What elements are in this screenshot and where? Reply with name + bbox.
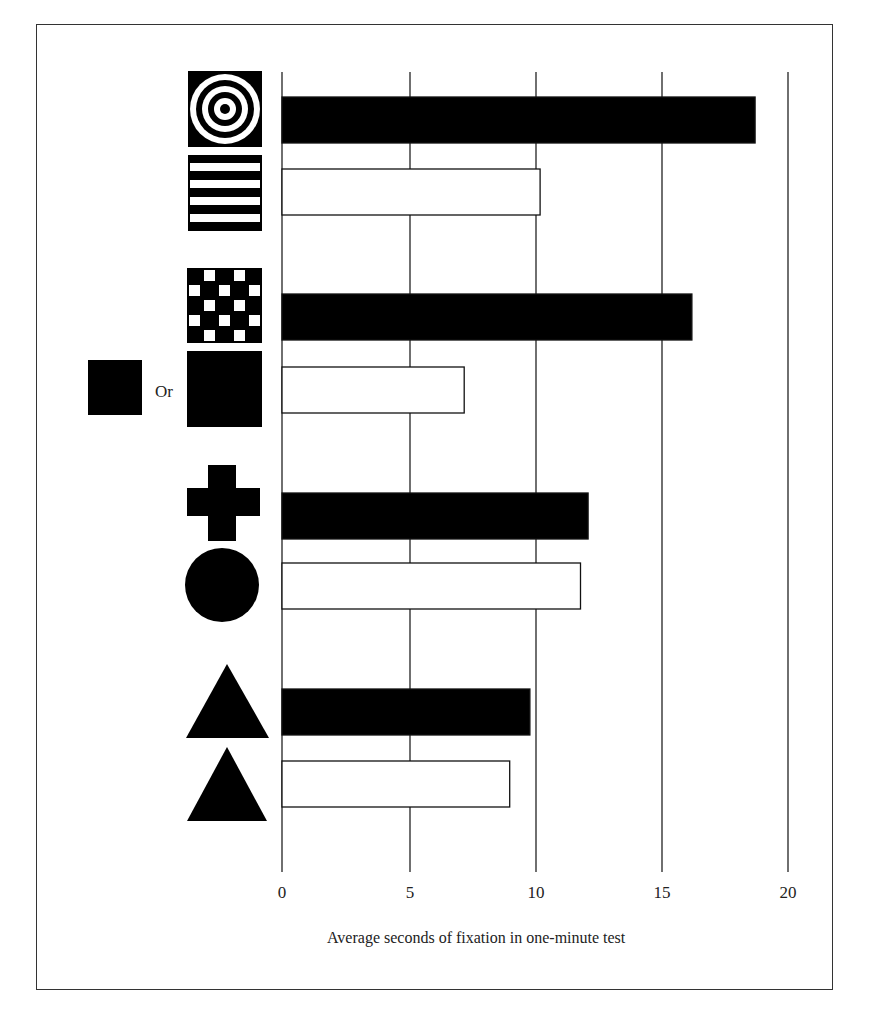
bar-0	[282, 97, 755, 143]
bar-7	[282, 761, 510, 807]
bars	[282, 97, 755, 807]
x-axis-label: Average seconds of fixation in one-minut…	[327, 929, 626, 947]
stripes-icon	[188, 155, 262, 231]
x-axis-ticks: 0 5 10 15 20	[278, 883, 797, 902]
bar-1	[282, 169, 540, 215]
bar-6	[282, 689, 530, 735]
chart: Or 0 5 10 15 20 Average seconds of fixat…	[0, 0, 874, 1014]
checkerboard-icon	[187, 268, 262, 343]
circle-icon	[185, 548, 259, 622]
triangle-small-icon	[187, 747, 267, 821]
solid-square-small-icon	[88, 360, 142, 415]
tick-5: 5	[406, 883, 415, 902]
tick-10: 10	[528, 883, 545, 902]
bar-3	[282, 367, 464, 413]
bullseye-icon	[188, 71, 262, 147]
or-label: Or	[155, 382, 173, 401]
cross-icon	[187, 465, 260, 541]
bar-2	[282, 294, 692, 340]
bar-4	[282, 493, 588, 539]
tick-15: 15	[654, 883, 671, 902]
tick-20: 20	[780, 883, 797, 902]
tick-0: 0	[278, 883, 287, 902]
solid-square-large-icon	[187, 351, 262, 427]
bar-5	[282, 563, 581, 609]
triangle-large-icon	[186, 664, 269, 738]
